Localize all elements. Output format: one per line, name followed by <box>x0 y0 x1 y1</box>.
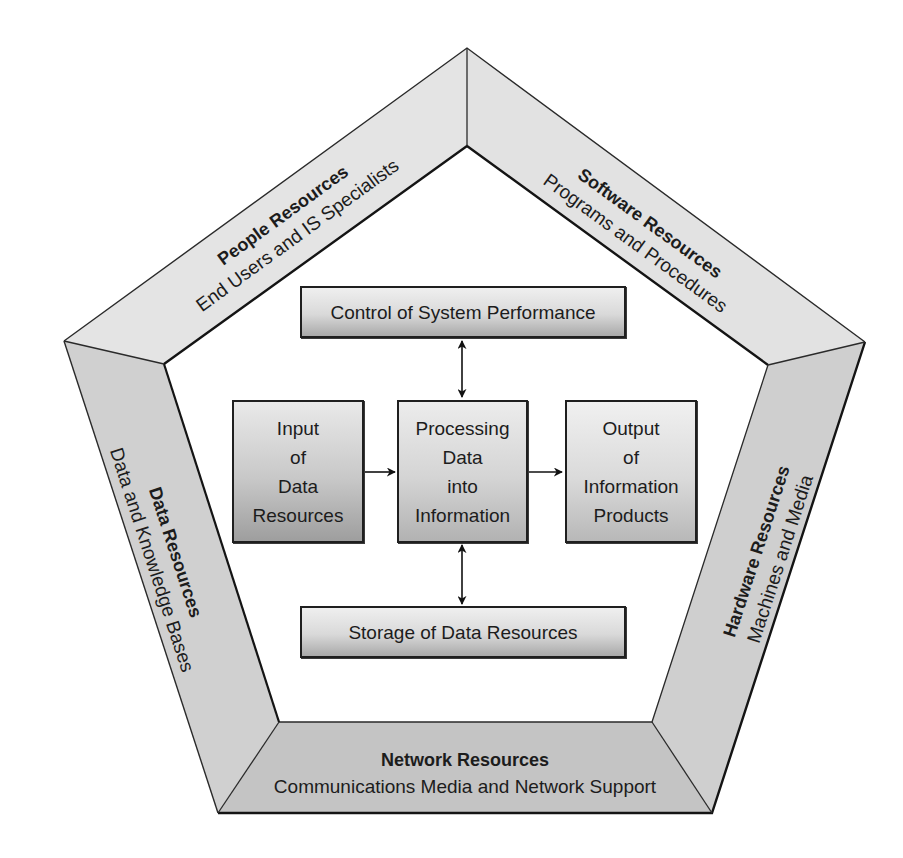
control-box-label: Control of System Performance <box>330 298 595 327</box>
output-box-line: Products <box>583 501 678 530</box>
control-box: Control of System Performance <box>300 286 626 338</box>
input-box: Input of Data Resources <box>232 400 364 543</box>
input-box-line: Data <box>253 472 344 501</box>
output-box-line: Output <box>583 414 678 443</box>
output-box: Output of Information Products <box>565 400 697 543</box>
output-box-line: Information <box>583 472 678 501</box>
input-box-line: Resources <box>253 501 344 530</box>
input-box-line: Input <box>253 414 344 443</box>
storage-box: Storage of Data Resources <box>300 606 626 658</box>
output-box-line: of <box>583 443 678 472</box>
input-box-line: of <box>253 443 344 472</box>
network-band-subtitle: Communications Media and Network Support <box>274 776 657 797</box>
network-band-title: Network Resources <box>381 750 549 770</box>
processing-box-line: Processing <box>415 414 510 443</box>
processing-box-line: Information <box>415 501 510 530</box>
storage-box-label: Storage of Data Resources <box>348 618 577 647</box>
processing-box: Processing Data into Information <box>397 400 528 543</box>
processing-box-line: into <box>415 472 510 501</box>
processing-box-line: Data <box>415 443 510 472</box>
resource-pentagon-diagram: People Resources End Users and IS Specia… <box>0 0 903 858</box>
